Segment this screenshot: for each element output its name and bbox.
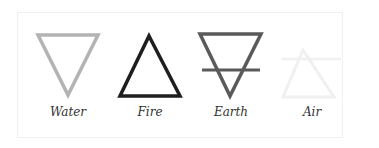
fire-symbol-icon bbox=[120, 36, 180, 96]
air-symbol-icon bbox=[282, 50, 341, 97]
earth-symbol-icon bbox=[200, 34, 261, 96]
water-label: Water bbox=[28, 105, 108, 119]
earth-label: Earth bbox=[191, 105, 271, 119]
air-label: Air bbox=[272, 105, 352, 119]
fire-label: Fire bbox=[110, 105, 190, 119]
element-symbols bbox=[0, 0, 379, 148]
water-symbol-icon bbox=[38, 35, 98, 95]
